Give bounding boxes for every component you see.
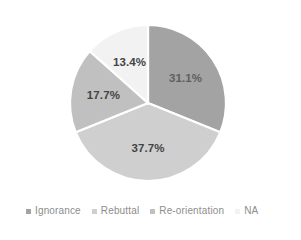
pie-svg: 31.1% 37.7% 17.7% 13.4% [0,0,301,196]
legend-swatch-icon [92,209,97,214]
pie-slice-label-rebuttal: 37.7% [131,142,164,154]
legend-item-rebuttal[interactable]: Rebuttal [92,205,139,217]
legend-item-na[interactable]: NA [235,205,258,217]
legend-item-ignorance[interactable]: Ignorance [26,205,81,217]
legend-swatch-icon [235,209,240,214]
pie-slice-label-na: 13.4% [113,56,146,68]
legend-label: NA [244,205,258,217]
legend-label: Rebuttal [101,205,139,217]
pie-chart: 31.1% 37.7% 17.7% 13.4% Ignorance Rebutt… [0,0,301,240]
pie-slice-label-ignorance: 31.1% [169,72,202,84]
legend-swatch-icon [150,209,155,214]
pie-slice-label-re-orientation: 17.7% [87,89,120,101]
legend-swatch-icon [26,209,31,214]
legend-item-re-orientation[interactable]: Re-orientation [150,205,224,217]
legend-label: Ignorance [35,205,81,217]
chart-legend: Ignorance Rebuttal Re-orientation NA [0,205,301,235]
pie-plot-area: 31.1% 37.7% 17.7% 13.4% [0,0,301,196]
legend-label: Re-orientation [159,205,224,217]
